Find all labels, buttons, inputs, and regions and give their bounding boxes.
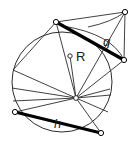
label-center-r: R <box>76 49 85 64</box>
chord-g <box>56 22 124 60</box>
geometry-figure-canvas: R g h <box>0 0 135 152</box>
main-circle <box>12 32 112 132</box>
hub-point <box>74 96 79 101</box>
line-hub-to-left-mid <box>12 88 76 98</box>
label-chord-g: g <box>103 34 111 49</box>
line-hub-to-left-upper <box>13 70 76 98</box>
line-topleft-to-left-upper <box>13 22 56 70</box>
center-point <box>68 54 72 58</box>
line-topleft-to-apex <box>56 12 125 22</box>
vertex-apex <box>122 9 127 14</box>
vertex-right <box>121 57 126 62</box>
line-apex-to-right <box>124 12 125 60</box>
vertex-top-left <box>53 19 58 24</box>
vertex-bottom-right <box>98 130 103 135</box>
geometry-svg: R g h <box>0 0 135 152</box>
label-chord-h: h <box>54 116 61 131</box>
vertex-bottom-left <box>12 109 17 114</box>
line-hub-to-right <box>76 60 124 98</box>
